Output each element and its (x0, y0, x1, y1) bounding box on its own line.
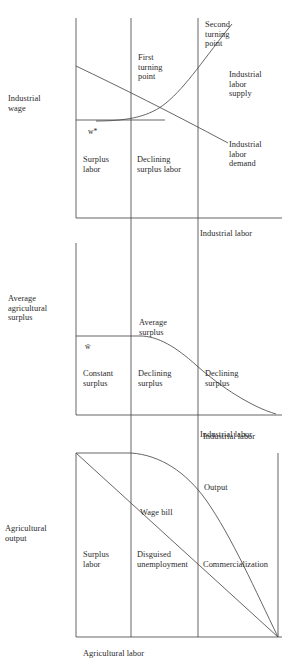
panel1-second-turning-point-label: Second turning point (205, 20, 255, 49)
panel2-declining-surplus-region-2-label: Declining surplus (205, 369, 255, 388)
panel3-output-curve (131, 453, 278, 637)
panel1-wstar-label: w* (88, 127, 97, 137)
panel1-surplus-labor-region-label: Surplus labor (83, 155, 131, 174)
panel1-x-axis-label: Industrial labor (200, 229, 252, 239)
panel3-y-axis-label: Agricultural output (5, 524, 75, 543)
panel1-declining-surplus-labor-region-label: Declining surplus labor (137, 155, 199, 174)
panel2-declining-surplus-region-1-label: Declining surplus (138, 369, 188, 388)
panel3-wage-bill-label: Wage bill (140, 508, 173, 518)
panel3-wage-bill-line (76, 453, 278, 637)
panel3-commercialization-region-label: Commercialization (203, 560, 268, 570)
panel2-wbar-label: w̄ (85, 342, 91, 352)
panel1-industrial-labor-demand-label: Industrial labor demand (229, 140, 289, 169)
panel3-x-axis-top-label: Industrial labor (203, 432, 255, 442)
lewis-model-figure: Industrial wage w* First turning point S… (0, 0, 303, 669)
panel1-first-turning-point-label: First turning point (138, 53, 186, 82)
panel3-x-axis-bottom-label: Agricultural labor (83, 649, 144, 659)
panel2-y-axis-label: Average agricultural surplus (8, 294, 74, 323)
panel1-industrial-labor-supply-label: Industrial labor supply (229, 70, 287, 99)
panel3-disguised-unemployment-region-label: Disguised unemployment (137, 550, 199, 569)
panel3-output-curve-label: Output (204, 483, 228, 493)
panel2-average-surplus-label: Average surplus (139, 318, 187, 337)
panel2-constant-surplus-region-label: Constant surplus (83, 369, 131, 388)
panel3-surplus-labor-region-label: Surplus labor (83, 550, 129, 569)
panel1-y-axis-label: Industrial wage (8, 94, 74, 113)
